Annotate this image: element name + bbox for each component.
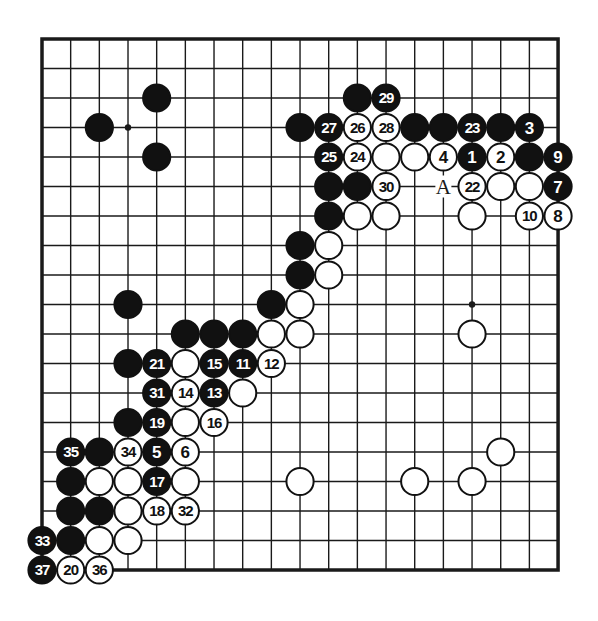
black-stone xyxy=(286,261,313,288)
white-stone-move-28: 28 xyxy=(372,114,399,141)
white-stone xyxy=(516,173,543,200)
white-stone-move-10: 10 xyxy=(516,202,543,229)
black-stone xyxy=(315,173,342,200)
black-stone xyxy=(401,114,428,141)
white-stone-move-4: 4 xyxy=(430,143,457,170)
move-number: 9 xyxy=(553,148,562,167)
white-stone xyxy=(172,468,199,495)
white-stone xyxy=(86,527,113,554)
black-stone-move-19: 19 xyxy=(143,409,170,436)
black-stone xyxy=(430,114,457,141)
white-stone-move-22: 22 xyxy=(458,173,485,200)
move-number: 5 xyxy=(152,443,161,462)
move-number: 32 xyxy=(178,502,193,519)
black-stone xyxy=(286,232,313,259)
black-stone-move-17: 17 xyxy=(143,468,170,495)
black-stone-move-31: 31 xyxy=(143,379,170,406)
white-stone xyxy=(315,232,342,259)
white-stone-move-32: 32 xyxy=(172,497,199,524)
black-stone-move-23: 23 xyxy=(458,114,485,141)
black-stone-move-35: 35 xyxy=(57,438,84,465)
black-stone xyxy=(200,320,227,347)
move-number: 19 xyxy=(149,414,164,431)
move-number: 36 xyxy=(92,561,107,578)
white-stone xyxy=(487,438,514,465)
white-stone-move-6: 6 xyxy=(172,438,199,465)
move-number: 25 xyxy=(321,148,336,165)
black-stone xyxy=(487,114,514,141)
white-stone xyxy=(229,379,256,406)
white-stone xyxy=(315,261,342,288)
move-number: 33 xyxy=(35,532,50,549)
white-stone-move-36: 36 xyxy=(86,556,113,583)
move-number: 4 xyxy=(439,148,449,167)
move-number: 14 xyxy=(178,384,194,401)
move-number: 35 xyxy=(63,443,78,460)
move-number: 20 xyxy=(63,561,78,578)
white-stone-move-26: 26 xyxy=(344,114,371,141)
white-stone xyxy=(458,202,485,229)
black-stone xyxy=(57,527,84,554)
move-number: 26 xyxy=(350,119,365,136)
white-stone xyxy=(458,468,485,495)
white-stone xyxy=(258,320,285,347)
black-stone-move-7: 7 xyxy=(544,173,571,200)
move-number: 37 xyxy=(35,561,50,578)
black-stone xyxy=(315,202,342,229)
white-stone xyxy=(344,202,371,229)
black-stone xyxy=(114,291,141,318)
move-number: 21 xyxy=(149,355,164,372)
black-stone-move-13: 13 xyxy=(200,379,227,406)
move-number: 29 xyxy=(379,89,394,106)
move-number: 16 xyxy=(207,414,222,431)
move-number: 23 xyxy=(465,119,480,136)
black-stone-move-1: 1 xyxy=(458,143,485,170)
white-stone xyxy=(114,527,141,554)
black-stone xyxy=(172,320,199,347)
black-stone xyxy=(286,114,313,141)
black-stone xyxy=(86,497,113,524)
white-stone-move-24: 24 xyxy=(344,143,371,170)
white-stone xyxy=(401,468,428,495)
white-stone xyxy=(458,320,485,347)
black-stone xyxy=(86,438,113,465)
white-stone xyxy=(487,173,514,200)
black-stone xyxy=(229,320,256,347)
white-stone-move-12: 12 xyxy=(258,350,285,377)
black-stone xyxy=(86,114,113,141)
black-stone-move-27: 27 xyxy=(315,114,342,141)
star-point xyxy=(469,301,475,307)
white-stone-move-30: 30 xyxy=(372,173,399,200)
black-stone-move-9: 9 xyxy=(544,143,571,170)
move-number: 18 xyxy=(149,502,164,519)
white-stone xyxy=(286,320,313,347)
black-stone-move-21: 21 xyxy=(143,350,170,377)
black-stone xyxy=(114,350,141,377)
white-stone xyxy=(114,497,141,524)
black-stone-move-15: 15 xyxy=(200,350,227,377)
move-number: 12 xyxy=(264,355,279,372)
white-stone xyxy=(86,468,113,495)
white-stone-move-20: 20 xyxy=(57,556,84,583)
board-labels: A xyxy=(435,175,451,199)
move-number: 2 xyxy=(496,148,505,167)
black-stone-move-25: 25 xyxy=(315,143,342,170)
white-stone xyxy=(286,291,313,318)
go-board: A 29272628233252441293022710821151112311… xyxy=(0,0,598,621)
black-stone-move-29: 29 xyxy=(372,84,399,111)
white-stone xyxy=(286,468,313,495)
white-stone xyxy=(372,143,399,170)
move-number: 30 xyxy=(379,178,394,195)
black-stone-move-3: 3 xyxy=(516,114,543,141)
move-number: 27 xyxy=(321,119,336,136)
white-stone xyxy=(114,468,141,495)
black-stone xyxy=(114,409,141,436)
black-stone xyxy=(516,143,543,170)
black-stone xyxy=(344,173,371,200)
black-stone xyxy=(57,497,84,524)
move-number: 17 xyxy=(149,473,164,490)
point-label: A xyxy=(436,175,452,199)
black-stone xyxy=(258,291,285,318)
move-number: 7 xyxy=(553,178,562,197)
move-number: 8 xyxy=(553,207,562,226)
